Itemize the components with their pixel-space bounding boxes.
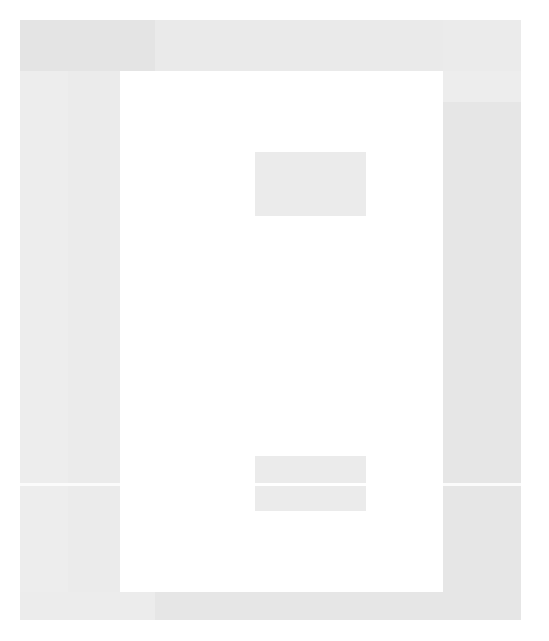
top-bar-left-section[interactable] [20,20,155,71]
app-window [0,0,549,641]
sidebar-left-rail[interactable] [20,71,68,592]
content-block-top[interactable] [255,152,366,216]
sidebar-right-divider [443,483,521,486]
content-canvas[interactable] [120,71,443,592]
top-bar-right-section[interactable] [443,20,521,71]
content-block-bottom-upper[interactable] [255,456,366,483]
content-block-bottom-lower[interactable] [255,486,366,511]
sidebar-left-divider [20,483,120,486]
sidebar-right-panel[interactable] [443,102,521,592]
status-bar-left-section[interactable] [20,592,155,620]
